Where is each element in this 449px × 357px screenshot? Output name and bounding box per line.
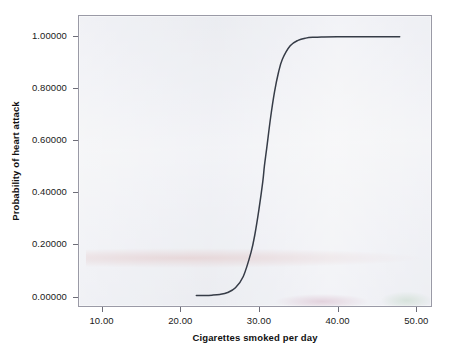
y-axis-title: Probability of heart attack (10, 15, 24, 307)
probability-curve-path (196, 37, 399, 296)
x-tick-label: 30.00 (229, 315, 289, 326)
logistic-curve-svg (79, 16, 431, 306)
y-tick-mark (73, 140, 78, 141)
y-tick-mark (73, 36, 78, 37)
x-tick-mark (338, 307, 339, 312)
x-tick-label: 50.00 (386, 315, 446, 326)
y-tick-mark (73, 297, 78, 298)
x-tick-label: 20.00 (150, 315, 210, 326)
x-tick-mark (180, 307, 181, 312)
y-tick-mark (73, 192, 78, 193)
x-tick-mark (416, 307, 417, 312)
y-tick-mark (73, 244, 78, 245)
x-tick-mark (259, 307, 260, 312)
y-tick-mark (73, 88, 78, 89)
plot-area (78, 15, 432, 307)
figure-canvas: 0.000000.200000.400000.600000.800001.000… (0, 0, 449, 357)
x-axis-title: Cigarettes smoked per day (78, 332, 432, 343)
x-tick-label: 40.00 (308, 315, 368, 326)
x-tick-mark (102, 307, 103, 312)
x-tick-label: 10.00 (72, 315, 132, 326)
